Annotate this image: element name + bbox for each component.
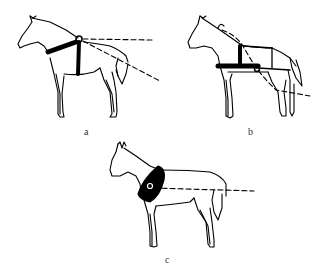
figure-drawing xyxy=(0,0,324,272)
panel-c-draught-line xyxy=(154,188,254,191)
panel-a-horizontal-draught-line xyxy=(83,39,152,40)
panel-a-girth-strap xyxy=(78,42,79,74)
panel-c-horse xyxy=(110,142,226,247)
panel-c-label: c xyxy=(165,254,169,265)
harness-figure: a b c xyxy=(0,0,324,272)
panel-a-horse xyxy=(18,16,128,117)
panel-a-label: a xyxy=(84,126,88,137)
panel-a-breast-strap xyxy=(48,42,76,52)
panel-b-label: b xyxy=(248,126,253,137)
panel-a-diagonal-draught-line xyxy=(83,41,160,81)
panel-b-breeching xyxy=(258,68,290,70)
